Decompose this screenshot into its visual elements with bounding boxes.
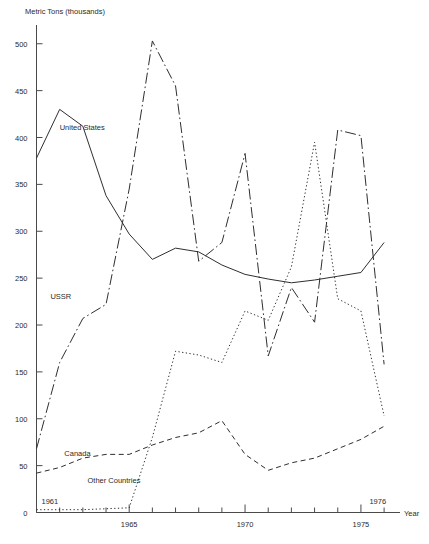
y-tick-label: 250	[15, 274, 28, 283]
y-tick-label: 350	[15, 180, 28, 189]
x-tick-label: 1965	[121, 520, 138, 529]
series-line-united-states	[37, 109, 385, 282]
y-tick-label: 150	[15, 368, 28, 377]
y-tick-label: 200	[15, 321, 28, 330]
y-axis-title: Metric Tons (thousands)	[25, 7, 105, 16]
series-label-other-countries: Other Countries	[87, 476, 140, 485]
x-axis-title: Year	[404, 509, 420, 518]
series-labels: United StatesUSSRCanadaOther Countries	[50, 123, 140, 485]
y-tick-label: 0	[23, 509, 27, 518]
series-label-ussr: USSR	[50, 292, 71, 301]
x-endpoint-labels: 19611976	[42, 497, 387, 506]
series-line-ussr	[37, 41, 385, 449]
series-label-canada: Canada	[64, 449, 91, 458]
series-line-canada	[37, 421, 385, 474]
x-tick-label: 1970	[237, 520, 254, 529]
y-tick-label: 500	[15, 40, 28, 49]
y-tick-label: 50	[19, 462, 27, 471]
x-axis: 196519701975	[37, 505, 401, 529]
series-label-united-states: United States	[60, 123, 105, 132]
y-tick-label: 400	[15, 134, 28, 143]
line-chart: Metric Tons (thousands) 0501001502002503…	[0, 0, 429, 544]
series-lines	[37, 41, 385, 510]
x-endpoint-label: 1961	[42, 497, 59, 506]
y-tick-label: 300	[15, 227, 28, 236]
x-endpoint-label: 1976	[369, 497, 386, 506]
x-tick-label: 1975	[353, 520, 370, 529]
y-tick-label: 100	[15, 415, 28, 424]
chart-container: Metric Tons (thousands) 0501001502002503…	[0, 0, 429, 544]
y-tick-label: 450	[15, 87, 28, 96]
